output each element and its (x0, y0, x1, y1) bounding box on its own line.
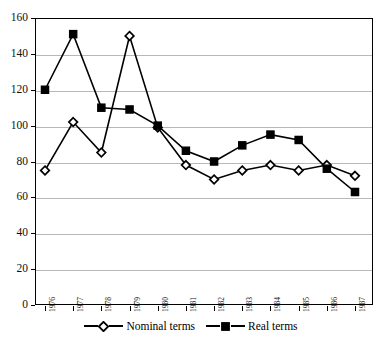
legend-line-icon (84, 325, 98, 327)
x-axis-tick-label: 1979 (133, 297, 142, 312)
x-axis-tickmark (327, 306, 328, 311)
y-axis-tick-label: 140 (0, 48, 28, 59)
x-axis-tickmark (214, 306, 215, 311)
x-axis-tickmark (45, 306, 46, 311)
x-axis-tickmark (73, 306, 74, 311)
gridline (36, 55, 372, 56)
legend-entry-nominal-terms: Nominal terms (84, 320, 197, 332)
y-axis-tick-label: 40 (0, 227, 28, 238)
x-axis-tick-label: 1984 (273, 297, 282, 312)
x-axis-tick-label: 1978 (104, 297, 113, 312)
x-axis-tickmark (270, 306, 271, 311)
plot-area (35, 18, 373, 305)
x-axis-tickmark (242, 306, 243, 311)
gridline (36, 198, 372, 199)
x-axis-tickmark (101, 306, 102, 311)
x-axis-tick-label: 1985 (302, 297, 311, 312)
x-axis-tick-label: 1977 (76, 297, 85, 312)
x-axis-tickmark (130, 306, 131, 311)
gridline (36, 127, 372, 128)
gridline (36, 270, 372, 271)
x-axis-tickmark (299, 306, 300, 311)
x-axis-tick-label: 1987 (358, 297, 367, 312)
x-axis-tick-label: 1976 (48, 297, 57, 312)
y-axis-tick-label: 80 (0, 156, 28, 167)
legend-label-nominal-terms: Nominal terms (126, 320, 195, 332)
legend-label-real-terms: Real terms (248, 320, 298, 332)
filled-square-icon (220, 321, 231, 332)
y-axis-tick-label: 60 (0, 191, 28, 202)
x-axis-tick-label: 1980 (161, 297, 170, 312)
y-axis-tick-label: 160 (0, 12, 28, 23)
legend-line-icon (109, 325, 123, 327)
legend-line-icon (231, 325, 245, 327)
x-axis-tick-label: 1986 (330, 297, 339, 312)
x-axis-tick-label: 1982 (217, 297, 226, 312)
y-axis-tick-label: 120 (0, 84, 28, 95)
gridline (36, 91, 372, 92)
chart-legend: Nominal terms Real terms (0, 320, 384, 332)
y-axis-tick-label: 100 (0, 120, 28, 131)
open-diamond-icon (98, 321, 109, 332)
x-axis-tick-label: 1983 (245, 297, 254, 312)
x-axis-tickmark (186, 306, 187, 311)
y-axis-tick-label: 0 (0, 299, 28, 310)
legend-line-icon (206, 325, 220, 327)
x-axis-tickmark (355, 306, 356, 311)
gridline (36, 234, 372, 235)
line-chart: 160140120100806040200 197619771978197919… (0, 0, 384, 340)
y-axis-tick-label: 20 (0, 263, 28, 274)
y-axis-tickmark (31, 305, 35, 306)
x-axis-tick-label: 1981 (189, 297, 198, 312)
gridline (36, 163, 372, 164)
legend-entry-real-terms: Real terms (206, 320, 300, 332)
x-axis-tickmark (158, 306, 159, 311)
